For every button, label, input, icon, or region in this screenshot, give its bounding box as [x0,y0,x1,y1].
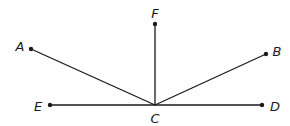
label-f: F [151,7,158,20]
point-a-dot [29,47,33,51]
segments [31,24,266,105]
point-d-dot [260,103,264,107]
label-a: A [16,40,25,53]
point-f-dot [153,22,157,26]
point-b-dot [264,52,268,56]
label-c: C [150,112,159,125]
label-e: E [34,100,42,113]
point-e-dot [48,103,52,107]
label-d: D [270,100,280,113]
label-b: B [273,45,282,58]
angle-diagram [0,0,290,126]
segment-cb [155,54,266,105]
segment-ca [31,49,155,105]
